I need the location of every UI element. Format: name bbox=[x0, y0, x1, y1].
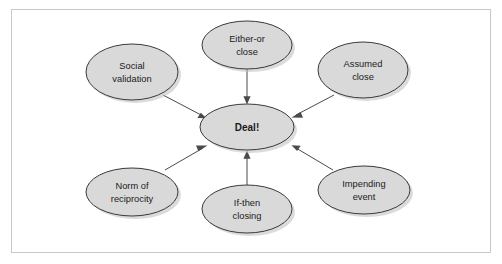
node-ellipse bbox=[202, 21, 292, 69]
node-if-then-closing[interactable]: If-then closing bbox=[202, 185, 295, 236]
node-ellipse bbox=[318, 166, 410, 214]
node-impending-event[interactable]: Impending event bbox=[318, 166, 413, 217]
edge-if-then-closing-deal bbox=[243, 151, 250, 187]
diagram-graphic: Social validation Either-or close Assume… bbox=[0, 0, 502, 264]
node-ellipse bbox=[86, 44, 178, 100]
diagram-canvas: Social validation Either-or close Assume… bbox=[0, 0, 502, 264]
node-either-or-close-label-line1: Either-or bbox=[229, 34, 265, 44]
node-either-or-close[interactable]: Either-or close bbox=[202, 21, 295, 72]
node-assumed-close-label-line2: close bbox=[352, 72, 374, 82]
edge-either-or-close-deal bbox=[243, 69, 250, 105]
edge-norm-of-reciprocity-deal bbox=[165, 145, 208, 170]
node-assumed-close-label-line1: Assumed bbox=[344, 59, 383, 69]
node-social-validation[interactable]: Social validation bbox=[86, 44, 181, 103]
node-assumed-close[interactable]: Assumed close bbox=[318, 42, 411, 101]
node-ellipse bbox=[202, 185, 292, 233]
edge-social-validation-deal bbox=[163, 95, 207, 118]
node-ellipse bbox=[86, 168, 178, 216]
node-deal-center[interactable]: Deal! bbox=[200, 104, 297, 153]
node-norm-of-reciprocity-label-line1: Norm of bbox=[115, 181, 148, 191]
edge-impending-event-deal bbox=[292, 145, 334, 170]
node-social-validation-label-line2: validation bbox=[112, 74, 151, 84]
edge-assumed-close-deal bbox=[292, 95, 335, 118]
node-norm-of-reciprocity-label-line2: reciprocity bbox=[111, 194, 154, 204]
node-impending-event-label-line2: event bbox=[353, 192, 376, 202]
node-if-then-closing-label-line1: If-then bbox=[234, 198, 260, 208]
node-impending-event-label-line1: Impending bbox=[342, 179, 385, 189]
node-either-or-close-label-line2: close bbox=[236, 47, 258, 57]
node-deal-center-label: Deal! bbox=[235, 122, 259, 133]
node-if-then-closing-label-line2: closing bbox=[233, 211, 262, 221]
node-social-validation-label-line1: Social bbox=[119, 61, 144, 71]
node-ellipse bbox=[318, 42, 408, 98]
node-norm-of-reciprocity[interactable]: Norm of reciprocity bbox=[86, 168, 181, 219]
node-layer: Social validation Either-or close Assume… bbox=[86, 21, 413, 236]
